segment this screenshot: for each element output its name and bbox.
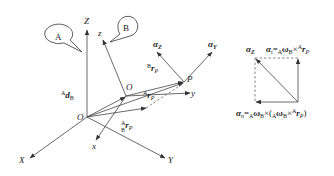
axis-X-arrow [30,117,87,158]
axis-z-label: z [97,28,102,38]
callout-a [45,24,82,52]
r-AP-label: ArP [143,90,155,101]
callout-b-label: B [123,23,129,33]
axis-X-label: X [18,155,25,165]
d-AB-label: AdB [61,90,74,101]
origin-A-label: O [77,112,84,122]
alpha-t-equation: αt=AωB×ArP [266,44,310,55]
alpha-Z-label: αZ [153,39,162,50]
axis-x-label: x [91,141,96,151]
r-BP-label: BrP [147,63,159,74]
alpha-z-resultant-arrow [256,59,298,102]
axis-z-arrow [103,40,126,96]
axis-Z-label: Z [84,16,90,26]
acceleration-decomposition [255,58,298,102]
kinematics-diagram: Z X Y O z y x O P αZ αY AdB BrP ArP ArP … [0,0,334,176]
axis-y-label: y [190,88,195,98]
axis-Y-label: Y [168,155,174,165]
origin-B-label: O [126,82,133,92]
alpha-Y-arrow [184,52,212,82]
alpha-Z-arrow [157,52,184,82]
decomp-alpha-Z-label: αZ [246,44,255,55]
alpha-Y-label: αY [208,39,218,50]
vector-r-AP [87,83,183,117]
alpha-n-equation: αn=AωB×(AωB×ArP) [236,108,307,119]
callout-a-label: A [55,32,62,42]
r-ABP-presub: B [121,127,125,133]
axis-x-arrow [96,96,126,140]
